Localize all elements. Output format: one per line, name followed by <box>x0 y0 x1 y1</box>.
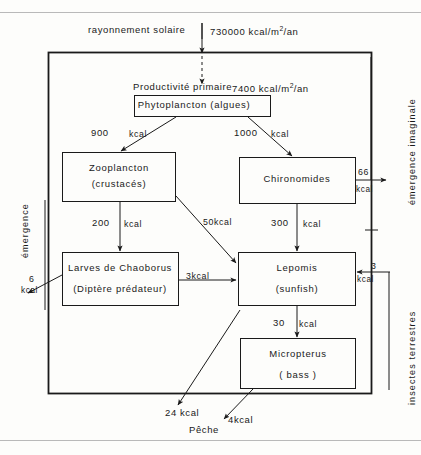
flow-unit-zoo-to-chaoborus: kcal <box>124 220 142 230</box>
primary-productivity-label: Productivité primaire <box>133 82 232 92</box>
node-sublabel-zooplancton: (crustacés) <box>92 178 147 189</box>
flow-value-phyto-to-zoo: 900 <box>91 128 109 138</box>
node-label-chaoborus: Larves de Chaoborus <box>68 262 172 273</box>
box-micropterus <box>241 339 356 389</box>
solar-radiation-value-tail: /an <box>283 26 298 37</box>
flow-unit-chiro-to-lepomis: kcal <box>303 220 321 230</box>
flow-value-phyto-to-chiro: 1000 <box>234 128 258 138</box>
flow-value-chaoborus-emergence: 6 <box>29 275 35 285</box>
flow-value-micropterus-fishery: 4kcal <box>228 415 253 425</box>
node-sublabel-chaoborus: (Diptère prédateur) <box>73 283 167 294</box>
node-label-chironomides: Chironomides <box>263 173 330 184</box>
node-label-zooplancton: Zooplancton <box>89 162 149 173</box>
energy-flow-diagram: rayonnement solaire 730000 kcal/m2/an Pr… <box>0 0 421 455</box>
flow-unit-lepomis-to-micropterus: kcal <box>299 320 317 330</box>
flow-value-zoo-to-chaoborus: 200 <box>92 218 110 228</box>
arrow-zoo-to-lepomis <box>176 196 236 263</box>
flow-unit-phyto-to-chiro: kcal <box>271 130 289 140</box>
flow-value-terrestrial-to-lepomis: 3 <box>371 262 377 272</box>
side-label-left-emergence: émergence <box>20 203 30 258</box>
flow-value-chiro-emergence: 66 <box>358 168 369 178</box>
flow-unit-terrestrial-to-lepomis: kcal <box>357 275 374 284</box>
solar-radiation-value-main: 730000 kcal/m <box>210 26 280 37</box>
primary-productivity-value: 7400 kcal/m2/an <box>232 82 309 95</box>
flow-value-chiro-to-lepomis: 300 <box>271 218 289 228</box>
node-label-phytoplancton: Phytoplancton (algues) <box>138 99 251 110</box>
solar-radiation-label: rayonnement solaire <box>88 25 185 35</box>
flow-value-chaoborus-to-lepomis: 3kcal <box>186 272 210 282</box>
node-sublabel-micropterus: ( bass ) <box>279 369 316 380</box>
side-label-right-emergence-imaginale: émergence imaginale <box>407 98 417 205</box>
node-label-lepomis: Lepomis <box>277 262 318 273</box>
flow-unit-chaoborus-emergence: kcal <box>21 286 38 295</box>
box-chaoborus <box>63 253 179 306</box>
flow-unit-phyto-to-zoo: kcal <box>129 130 147 140</box>
fishery-label: Pêche <box>189 425 219 435</box>
flow-value-lepomis-to-micropterus: 30 <box>273 318 285 328</box>
box-zooplancton <box>63 153 176 202</box>
flow-unit-chiro-emergence: kcal <box>356 185 373 194</box>
primary-productivity-value-tail: /an <box>294 83 309 94</box>
primary-productivity-value-main: 7400 kcal/m <box>232 83 290 94</box>
node-label-micropterus: Micropterus <box>269 348 326 359</box>
flow-value-zoo-to-lepomis: 50kcal <box>203 218 232 228</box>
node-sublabel-lepomis: (sunfish) <box>276 283 319 294</box>
box-lepomis <box>239 253 356 306</box>
side-label-right-insectes-terrestres: insectes terrestres <box>407 311 417 405</box>
flow-value-lepomis-fishery: 24 kcal <box>165 408 199 418</box>
arrow-lepomis-fishery <box>178 310 240 405</box>
solar-radiation-value: 730000 kcal/m2/an <box>210 25 298 38</box>
